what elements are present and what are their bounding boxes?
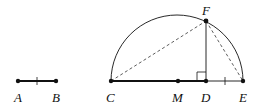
point-B bbox=[54, 79, 58, 83]
point-A bbox=[16, 79, 20, 83]
segment-CF-dashed bbox=[111, 21, 206, 81]
segment-FE-dashed bbox=[206, 21, 243, 81]
point-E bbox=[241, 79, 245, 83]
point-M bbox=[176, 79, 180, 83]
label-F: F bbox=[201, 3, 211, 18]
geometry-diagram: A B C M D E F bbox=[0, 0, 261, 112]
label-D: D bbox=[200, 90, 211, 105]
point-C bbox=[109, 79, 113, 83]
label-M: M bbox=[171, 90, 184, 105]
point-F bbox=[204, 19, 209, 24]
label-A: A bbox=[13, 90, 22, 105]
label-C: C bbox=[106, 90, 115, 105]
label-E: E bbox=[238, 90, 247, 105]
semicircle-arc bbox=[111, 15, 243, 81]
point-D bbox=[204, 79, 208, 83]
label-B: B bbox=[52, 90, 60, 105]
